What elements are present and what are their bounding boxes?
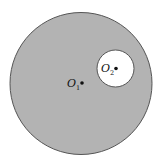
center-point-o2: [114, 67, 118, 71]
center-point-o1: [80, 81, 84, 85]
diagram-canvas: O1 O2: [0, 0, 158, 163]
